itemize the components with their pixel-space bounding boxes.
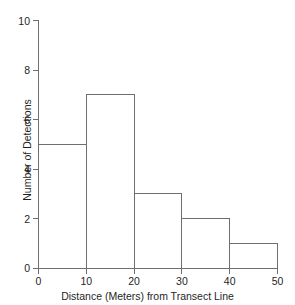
x-tick-label-10: 10 <box>80 276 92 287</box>
bar-bin-40-50 <box>230 244 278 269</box>
bar-bin-0-10 <box>39 145 87 269</box>
y-tick-marks <box>33 21 39 269</box>
y-axis-title-container: Number of Detections <box>2 0 16 290</box>
bar-bin-20-30 <box>134 194 182 269</box>
x-tick-label-50: 50 <box>272 276 284 287</box>
x-tick-label-20: 20 <box>128 276 140 287</box>
y-axis-title: Number of Detections <box>21 70 33 230</box>
chart-canvas <box>0 0 295 305</box>
histogram-bars <box>39 95 278 269</box>
bar-bin-30-40 <box>182 219 230 269</box>
x-axis-title: Distance (Meters) from Transect Line <box>0 290 295 302</box>
bar-bin-10-20 <box>86 95 134 269</box>
x-tick-label-0: 0 <box>36 276 42 287</box>
histogram-chart: 0 2 4 6 8 10 0 10 20 30 40 50 Number of … <box>0 0 295 305</box>
x-tick-marks <box>39 269 278 275</box>
x-tick-label-30: 30 <box>176 276 188 287</box>
x-tick-label-40: 40 <box>224 276 236 287</box>
